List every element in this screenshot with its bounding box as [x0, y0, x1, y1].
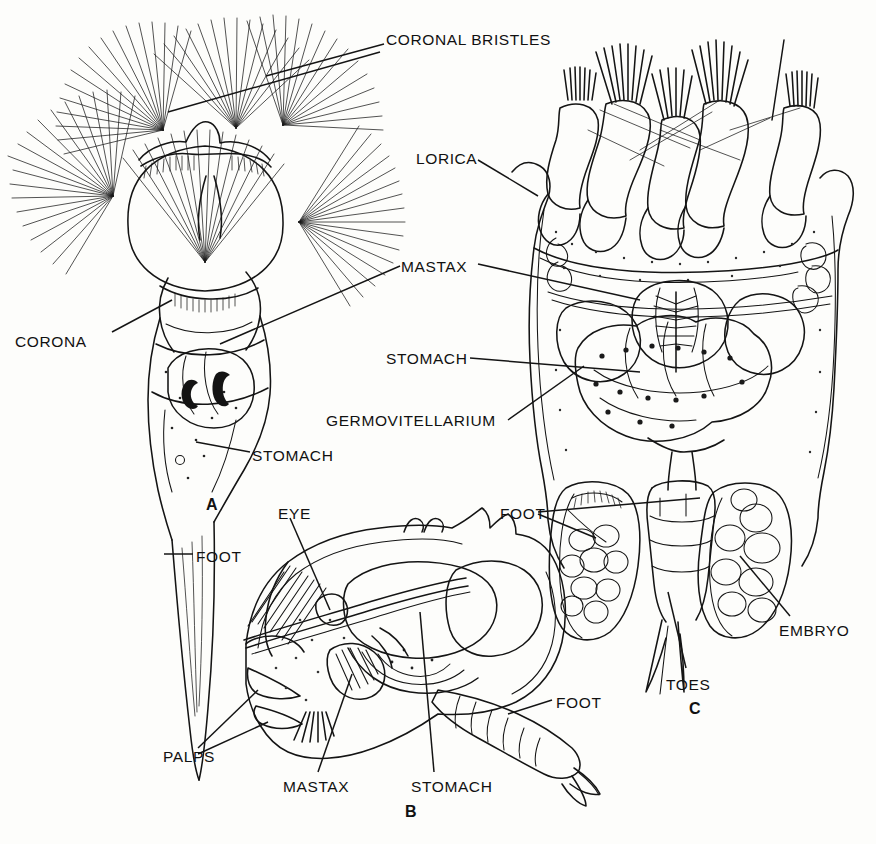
panel-c-embryos	[549, 482, 791, 640]
panel-c-mastax	[632, 281, 728, 372]
label-toes-c: TOES	[666, 676, 710, 694]
panel-c-stomach	[575, 316, 771, 442]
label-foot-a: FOOT	[196, 548, 241, 566]
coronal-bristle-tufts	[8, 15, 405, 306]
panel-letter-c: C	[689, 700, 701, 718]
panel-c-organism	[512, 40, 853, 694]
label-mastax-b: MASTAX	[283, 778, 349, 796]
label-stomach-a: STOMACH	[252, 447, 333, 465]
panel-letter-a: A	[206, 496, 218, 514]
panel-a-trunk	[148, 272, 271, 780]
label-stomach-b: STOMACH	[411, 778, 492, 796]
panel-letter-b: B	[405, 803, 417, 821]
figure-canvas: CORONAL BRISTLES CORONA STOMACH FOOT EYE…	[0, 0, 876, 844]
label-germovitellarium-c: GERMOVITELLARIUM	[326, 412, 496, 430]
panel-a-organism	[8, 15, 405, 780]
panel-b-organism	[244, 508, 600, 806]
label-mastax-c: MASTAX	[401, 258, 467, 276]
panel-c-coronal-bristles	[564, 40, 818, 166]
label-stomach-c: STOMACH	[386, 350, 467, 368]
label-foot-b: FOOT	[556, 694, 601, 712]
label-lorica-c: LORICA	[416, 150, 477, 168]
label-eye-b: EYE	[278, 505, 311, 523]
label-embryo-c: EMBRYO	[779, 622, 850, 640]
label-coronal-bristles: CORONAL BRISTLES	[386, 31, 551, 49]
panel-b-bristle-hatching	[248, 566, 326, 644]
panel-a-corona	[128, 122, 283, 291]
label-corona: CORONA	[15, 333, 87, 351]
label-foot-c: FOOT	[500, 505, 545, 523]
label-palps-b: PALPS	[163, 748, 215, 766]
panel-c-corona-lobes	[538, 101, 820, 260]
